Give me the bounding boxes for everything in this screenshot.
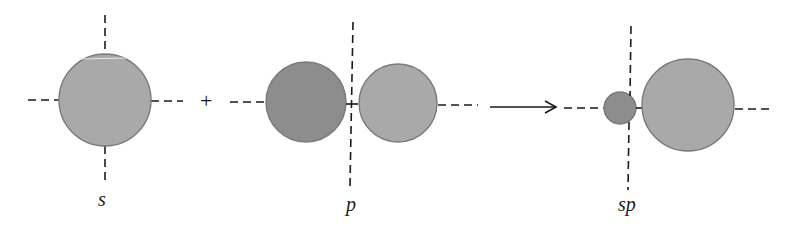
p-orbital-positive-lobe (359, 64, 437, 142)
sp-orbital-small-lobe (604, 92, 636, 124)
plus-sign: + (200, 88, 212, 113)
s-orbital: s (28, 15, 183, 210)
sp-orbital-large-lobe (642, 59, 734, 151)
sp-orbital-label: sp (618, 193, 636, 216)
reaction-arrow (490, 101, 556, 113)
s-orbital-lobe (59, 54, 151, 146)
s-orbital-label: s (98, 188, 106, 210)
p-orbital-label: p (344, 193, 356, 216)
p-orbital: p (230, 22, 478, 216)
sp-orbital: sp (564, 26, 774, 216)
sp-vertical-axis-lower (628, 122, 629, 190)
sp-vertical-axis-upper (630, 26, 631, 96)
sp-hybridization-diagram: s + p sp (0, 0, 797, 227)
p-orbital-negative-lobe (266, 62, 346, 142)
